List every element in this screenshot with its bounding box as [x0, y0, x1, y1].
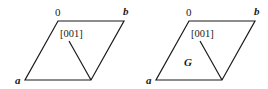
origin-label: 0 [186, 6, 192, 18]
b-axis-label: b [254, 5, 260, 17]
a-axis-label: a [15, 74, 21, 86]
direction-line [69, 41, 91, 80]
b-axis-label: b [123, 5, 129, 17]
diagram-canvas: 0 b a [001] 0 b a [001] G [0, 0, 268, 89]
direction-label: [001] [191, 28, 214, 39]
origin-label: 0 [55, 6, 61, 18]
right-parallelogram-figure: 0 b a [001] G [146, 5, 260, 86]
direction-line [200, 41, 222, 80]
left-parallelogram-figure: 0 b a [001] [15, 5, 129, 86]
direction-label: [001] [60, 28, 83, 39]
region-g-label: G [184, 56, 192, 68]
a-axis-label: a [146, 74, 152, 86]
